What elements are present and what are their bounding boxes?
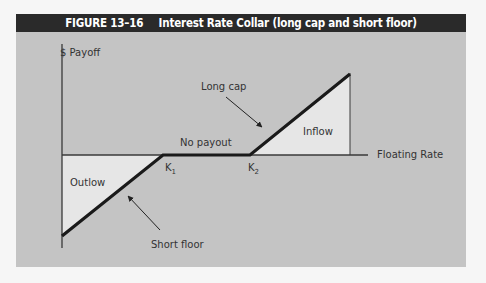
inflow-label: Inflow — [303, 126, 333, 137]
short-floor-label: Short floor — [151, 239, 205, 250]
outflow-label: Outlow — [70, 177, 105, 188]
strike-k2-label: K2 — [248, 162, 259, 176]
short-floor-arrow — [128, 196, 160, 230]
long-cap-arrow — [226, 97, 262, 127]
collar-diagram: $ Payoff Floating Rate Outlow No payout … — [0, 0, 486, 283]
no-payout-label: No payout — [180, 137, 232, 148]
strike-k1-label: K1 — [165, 162, 176, 176]
x-axis-label: Floating Rate — [377, 149, 443, 160]
y-axis-label: $ Payoff — [60, 47, 101, 58]
long-cap-label: Long cap — [201, 81, 246, 92]
